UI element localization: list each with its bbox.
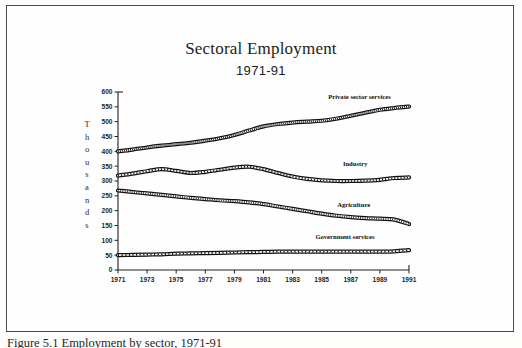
series-label-agriculture: Agriculture (337, 201, 370, 208)
y-tick-label: 300 (101, 177, 112, 184)
x-tick-label: 1987 (343, 276, 358, 283)
y-tick-label: 50 (105, 252, 113, 259)
y-tick-label: 550 (101, 103, 112, 110)
x-tick-label: 1983 (285, 276, 300, 283)
y-tick-label: 350 (101, 163, 112, 170)
x-tick-label: 1991 (402, 276, 417, 283)
x-tick-label: 1979 (227, 276, 242, 283)
x-tick-label: 1977 (198, 276, 213, 283)
figure-caption: Figure 5.1 Employment by sector, 1971-91 (7, 336, 507, 348)
y-tick-label: 400 (101, 148, 112, 155)
series-industry (118, 167, 409, 181)
sectoral-employment-chart: Sectoral Employment 1971-91 Thousands 05… (0, 0, 522, 348)
x-axis-ticks: 1971197319751977197919811983198519871989… (111, 270, 417, 283)
series-private-sector-services (118, 107, 409, 152)
x-tick-label: 1985 (314, 276, 329, 283)
y-tick-label: 100 (101, 237, 112, 244)
x-tick-label: 1975 (169, 276, 184, 283)
y-tick-label: 450 (101, 133, 112, 140)
series-label-government-services: Government services (315, 233, 375, 240)
y-tick-label: 500 (101, 118, 112, 125)
y-axis-ticks: 050100150200250300350400450500550600 (101, 88, 118, 273)
x-tick-label: 1971 (111, 276, 126, 283)
series-government-services (118, 250, 409, 255)
y-tick-label: 0 (109, 266, 113, 273)
y-tick-label: 150 (101, 222, 112, 229)
series-label-industry: Industry (343, 160, 368, 167)
x-tick-label: 1989 (373, 276, 388, 283)
plot-canvas: 050100150200250300350400450500550600 197… (0, 0, 522, 348)
x-tick-label: 1973 (140, 276, 155, 283)
y-tick-label: 250 (101, 192, 112, 199)
x-tick-label: 1981 (256, 276, 271, 283)
y-tick-label: 200 (101, 207, 112, 214)
series-label-private-sector-services: Private sector services (328, 93, 391, 100)
y-tick-label: 600 (101, 88, 112, 95)
